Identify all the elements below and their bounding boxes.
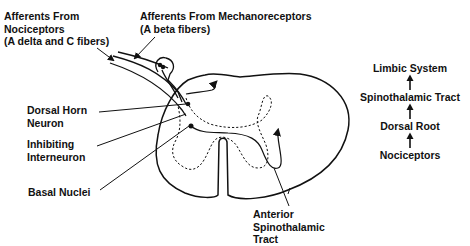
spinal-cord-outline — [156, 73, 349, 198]
label-anterior-spinothalamic-tract: Anterior Spinothalamic Tract — [253, 208, 325, 246]
ganglion-cell-body-2 — [161, 65, 165, 69]
leader-basal-nuclei — [100, 126, 189, 190]
flow-step-dorsal-root: Dorsal Root — [350, 120, 470, 132]
leader-interneuron — [97, 114, 186, 146]
label-mechanoreceptor-afferents: Afferents From Mechanoreceptors (A beta … — [140, 10, 312, 35]
label-nociceptor-afferents: Afferents From Nociceptors (A delta and … — [4, 10, 109, 48]
crossing-fiber — [191, 126, 281, 168]
up-arrow-icon — [350, 74, 470, 91]
up-arrow-icon — [350, 103, 470, 120]
up-arrow-icon — [350, 132, 470, 149]
nociceptor-fiber-inner — [113, 56, 182, 102]
leader-nociceptors — [97, 48, 113, 60]
flow-step-limbic-system: Limbic System — [350, 62, 470, 74]
leader-mechanoreceptors — [135, 37, 155, 58]
flow-step-nociceptors: Nociceptors — [350, 149, 470, 161]
leader-anterior-tract-main — [274, 168, 289, 206]
dorsal-horn-neuron-dot — [186, 102, 191, 107]
ascending-collateral-arrow — [186, 82, 216, 94]
nociceptor-fiber-outer — [110, 63, 186, 116]
flow-step-spinothalamic-tract: Spinothalamic Tract — [350, 91, 470, 103]
leader-dorsal-horn — [99, 104, 186, 112]
pain-pathway-flow: Limbic System Spinothalamic Tract Dorsal… — [350, 62, 470, 161]
label-inhibiting-interneuron: Inhibiting Interneuron — [27, 138, 85, 163]
label-basal-nuclei: Basal Nuclei — [28, 186, 90, 199]
label-dorsal-horn-neuron: Dorsal Horn Neuron — [27, 104, 87, 129]
